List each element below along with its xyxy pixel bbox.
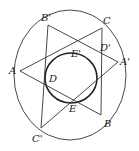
segment-B'C' xyxy=(41,25,48,128)
label-C-prime: C' xyxy=(32,133,42,144)
label-B: B xyxy=(103,118,111,129)
label-D-prime: D' xyxy=(99,42,111,53)
label-D: D xyxy=(48,73,57,84)
segment-CA xyxy=(20,28,102,71)
label-E: E xyxy=(68,103,77,114)
label-E-prime: E' xyxy=(70,48,81,59)
hexagram-ellipse-diagram: A B C A' B' C' D D' E E' xyxy=(0,0,139,151)
label-A: A xyxy=(8,65,16,76)
label-C: C xyxy=(103,15,111,26)
label-B-prime: B' xyxy=(40,12,51,23)
segment-AB xyxy=(20,71,101,115)
label-A-prime: A' xyxy=(119,56,130,67)
